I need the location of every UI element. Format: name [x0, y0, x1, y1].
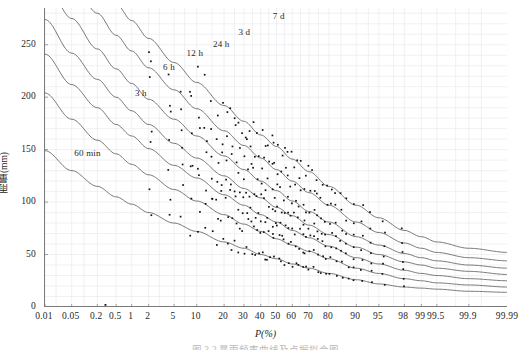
data-point	[293, 212, 295, 214]
data-point	[244, 155, 246, 157]
data-point	[330, 246, 332, 248]
data-point	[269, 256, 271, 258]
data-point	[246, 212, 248, 214]
data-point	[335, 235, 337, 237]
data-point	[296, 262, 298, 264]
data-point	[287, 212, 289, 214]
data-point	[239, 192, 241, 194]
data-point	[320, 272, 322, 274]
data-point	[229, 189, 231, 191]
x-axis-title-text: P(%)	[255, 328, 276, 339]
data-point	[305, 212, 307, 214]
data-point	[247, 169, 249, 171]
data-point	[382, 263, 384, 265]
data-point	[313, 235, 315, 237]
data-point	[298, 206, 300, 208]
data-point	[362, 235, 364, 237]
data-point	[242, 212, 244, 214]
data-point	[311, 169, 313, 171]
data-point	[325, 245, 327, 247]
data-point	[267, 145, 269, 147]
data-point	[291, 151, 293, 153]
data-point	[210, 128, 212, 130]
data-point	[402, 251, 404, 253]
data-point	[330, 203, 332, 205]
data-point	[272, 189, 274, 191]
data-point	[148, 51, 150, 53]
data-point	[402, 261, 404, 263]
data-point	[265, 189, 267, 191]
data-point	[203, 127, 205, 129]
data-point	[254, 193, 256, 195]
data-point	[305, 175, 307, 177]
data-point	[360, 269, 362, 271]
data-point	[252, 167, 254, 169]
data-point	[234, 240, 236, 242]
data-point	[220, 190, 222, 192]
data-point	[273, 162, 275, 164]
data-point	[263, 231, 265, 233]
data-point	[310, 190, 312, 192]
data-point	[273, 237, 275, 239]
data-point	[353, 246, 355, 248]
data-point	[291, 203, 293, 205]
data-point	[296, 159, 298, 161]
data-point	[243, 178, 245, 180]
data-point	[227, 243, 229, 245]
plot-area	[44, 8, 507, 307]
data-point	[342, 277, 344, 279]
data-point	[317, 254, 319, 256]
rainfall-frequency-figure: 050100150200250 0.010.050.20.51251020304…	[0, 0, 531, 350]
data-point	[345, 243, 347, 245]
data-point	[298, 264, 300, 266]
data-point	[268, 206, 270, 208]
data-point	[222, 238, 224, 240]
data-point	[238, 122, 240, 124]
data-point	[199, 127, 201, 129]
data-point	[170, 111, 172, 113]
data-point	[290, 241, 292, 243]
data-point	[189, 235, 191, 237]
data-point	[246, 246, 248, 248]
data-point	[300, 189, 302, 191]
data-point	[327, 204, 329, 206]
data-point	[284, 147, 286, 149]
data-point	[244, 253, 246, 255]
data-point	[265, 145, 267, 147]
data-point	[216, 244, 218, 246]
data-point	[278, 258, 280, 260]
data-point	[314, 209, 316, 211]
data-point	[205, 190, 207, 192]
data-point	[248, 218, 250, 220]
data-point	[227, 111, 229, 113]
data-point	[308, 269, 310, 271]
data-point	[197, 168, 199, 170]
data-point	[370, 263, 372, 265]
data-point	[326, 185, 328, 187]
frequency-curve-60-min	[45, 151, 507, 293]
data-point	[403, 278, 405, 280]
x-tick-label: 99.5	[418, 311, 454, 321]
data-point	[231, 217, 233, 219]
data-point	[331, 232, 333, 234]
data-point	[281, 235, 283, 237]
data-point	[320, 218, 322, 220]
data-point	[217, 115, 219, 117]
data-point	[285, 225, 287, 227]
data-point	[182, 184, 184, 186]
data-point	[370, 242, 372, 244]
data-point	[235, 196, 237, 198]
data-point	[320, 197, 322, 199]
data-point	[206, 151, 208, 153]
data-point	[383, 256, 385, 258]
data-point	[316, 179, 318, 181]
data-point	[304, 188, 306, 190]
data-point	[225, 179, 227, 181]
data-point	[266, 259, 268, 261]
curve-label-24-h: 24 h	[213, 39, 230, 49]
data-point	[294, 234, 296, 236]
data-point	[266, 217, 268, 219]
data-point	[180, 91, 182, 93]
data-point	[341, 230, 343, 232]
data-point	[251, 163, 253, 165]
